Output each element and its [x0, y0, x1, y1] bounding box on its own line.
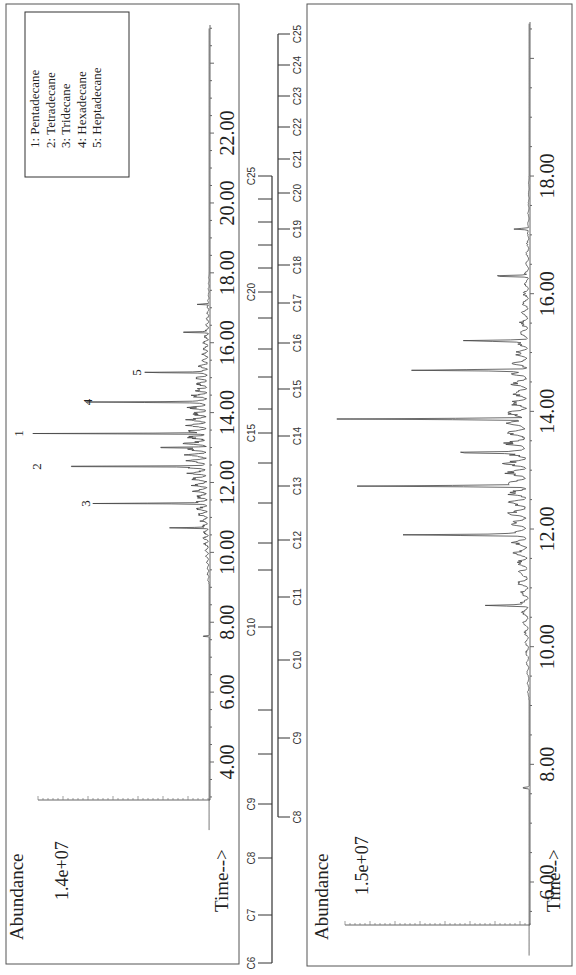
carbon-label: C10 [246, 617, 257, 636]
carbon-label: C20 [292, 183, 303, 202]
peak-label: 4 [80, 398, 95, 405]
time-tick-label: 18.00 [216, 250, 238, 295]
legend-entry: 1: Pentadecane [27, 69, 42, 148]
carbon-label: C10 [292, 650, 303, 669]
carbon-label: C8 [246, 851, 257, 864]
time-tick-label: 10.00 [536, 624, 558, 669]
time-tick-label: 12.00 [216, 460, 238, 505]
bottom-y-scale-label: 1.5e+07 [352, 836, 372, 895]
top-y-scale-label: 1.4e+07 [52, 841, 72, 900]
legend: 1: Pentadecane2: Tetradecane3: Tridecane… [25, 12, 129, 177]
carbon-label: C9 [292, 731, 303, 744]
time-tick-label: 6.00 [216, 675, 238, 710]
carbon-label: C9 [246, 797, 257, 810]
top-xlabel: Time--> [211, 849, 232, 912]
time-tick-label: 10.00 [216, 530, 238, 575]
peak-label: 1 [11, 430, 26, 437]
carbon-label: C16 [292, 333, 303, 352]
carbon-label: C8 [292, 810, 303, 823]
lower-carbon-scale: C8C9C10C11C12C13C14C15C16C17C18C19C20C21… [278, 24, 303, 823]
carbon-label: C19 [292, 219, 303, 238]
time-tick-label: 8.00 [216, 605, 238, 640]
carbon-label: C22 [292, 117, 303, 136]
bottom-panel-frame [307, 4, 572, 966]
peak-label: 5 [129, 369, 144, 376]
time-tick-label: 4.00 [216, 745, 238, 780]
carbon-label: C18 [292, 255, 303, 274]
carbon-label: C21 [292, 149, 303, 168]
time-tick-label: 16.00 [536, 271, 558, 316]
legend-entry: 2: Tetradecane [43, 72, 58, 148]
carbon-label: C15 [292, 379, 303, 398]
carbon-label: C25 [246, 166, 257, 185]
time-tick-label: 12.00 [536, 507, 558, 552]
carbon-label: C17 [292, 293, 303, 312]
time-tick-label: 20.00 [216, 180, 238, 225]
time-tick-label: 16.00 [216, 320, 238, 365]
bottom-chromatogram-trace [337, 24, 529, 956]
carbon-label: C7 [246, 908, 257, 921]
carbon-label: C25 [292, 24, 303, 43]
top-ylabel: Abundance [6, 853, 27, 940]
carbon-label: C13 [292, 476, 303, 495]
peak-label: 3 [78, 500, 93, 507]
bottom-xlabel: Time--> [543, 849, 564, 912]
legend-entry: 4: Hexadecane [74, 71, 89, 148]
time-tick-label: 14.00 [216, 390, 238, 435]
carbon-label: C15 [246, 423, 257, 442]
carbon-label: C12 [292, 530, 303, 549]
legend-entry: 3: Tridecane [58, 83, 73, 148]
carbon-label: C24 [292, 55, 303, 74]
chromatogram-figure: 4.006.008.0010.0012.0014.0016.0018.0020.… [0, 0, 576, 975]
upper-carbon-scale: C6C7C8C9C10C15C20C25 [246, 166, 272, 969]
legend-entry: 5: Heptadecane [89, 67, 104, 148]
peak-label: 2 [29, 463, 44, 470]
carbon-label: C11 [292, 588, 303, 606]
time-tick-label: 8.00 [536, 747, 558, 782]
carbon-label: C14 [292, 426, 303, 445]
carbon-label: C23 [292, 86, 303, 105]
time-tick-label: 14.00 [536, 389, 558, 434]
bottom-ylabel: Abundance [311, 853, 332, 940]
carbon-label: C20 [246, 282, 257, 301]
carbon-label: C6 [246, 956, 257, 969]
time-tick-label: 18.00 [536, 154, 558, 199]
time-tick-label: 22.00 [216, 111, 238, 156]
